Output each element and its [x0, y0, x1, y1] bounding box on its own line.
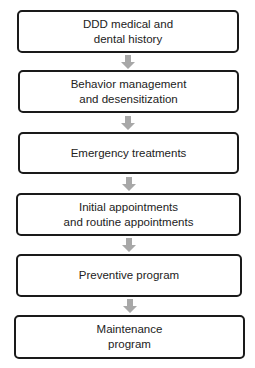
step-emergency-treatments: Emergency treatments [18, 132, 239, 174]
step-label: Preventive program [79, 268, 179, 283]
down-arrow-icon [123, 299, 137, 313]
down-arrow-icon [121, 55, 135, 69]
step-label: DDD medical and dental history [83, 17, 173, 47]
step-behavior-management: Behavior management and desensitization [18, 70, 239, 113]
down-arrow-icon [121, 116, 135, 130]
step-maintenance-program: Maintenance program [14, 315, 245, 359]
down-arrow-icon [122, 177, 136, 191]
step-label: Maintenance program [97, 322, 163, 352]
step-label: Behavior management and desensitization [71, 77, 187, 107]
down-arrow-icon [122, 238, 136, 252]
step-medical-history: DDD medical and dental history [17, 10, 239, 53]
step-preventive-program: Preventive program [16, 254, 242, 297]
step-appointments: Initial appointments and routine appoint… [16, 193, 241, 236]
step-label: Emergency treatments [71, 146, 187, 161]
step-label: Initial appointments and routine appoint… [64, 200, 194, 230]
